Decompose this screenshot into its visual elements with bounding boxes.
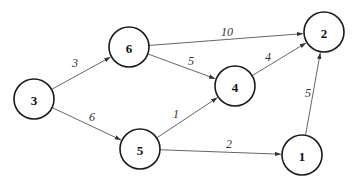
edge-3-to-5: 6 bbox=[52, 108, 121, 141]
edge-weight-label: 5 bbox=[305, 86, 311, 100]
node-label: 1 bbox=[299, 149, 306, 164]
edge-weight-label: 5 bbox=[188, 54, 194, 68]
arrow-icon bbox=[160, 150, 281, 154]
node-label: 4 bbox=[232, 80, 239, 95]
node-5: 5 bbox=[120, 129, 160, 169]
arrow-icon bbox=[52, 57, 111, 89]
node-label: 5 bbox=[137, 143, 144, 158]
edge-weight-label: 2 bbox=[226, 137, 232, 151]
edge-weight-label: 1 bbox=[173, 107, 179, 121]
edge-5-to-4: 1 bbox=[157, 98, 218, 138]
edge-weight-label: 6 bbox=[89, 110, 95, 124]
edge-3-to-6: 3 bbox=[52, 56, 111, 89]
node-2: 2 bbox=[304, 12, 344, 52]
arrow-icon bbox=[52, 108, 121, 141]
edge-weight-label: 3 bbox=[71, 56, 78, 70]
edge-5-to-1: 2 bbox=[160, 137, 281, 154]
arrow-icon bbox=[148, 54, 216, 79]
node-label: 2 bbox=[321, 26, 328, 41]
edges-layer: 361051245 bbox=[52, 25, 321, 154]
edge-weight-label: 4 bbox=[265, 50, 271, 64]
node-6: 6 bbox=[109, 27, 149, 67]
arrow-icon bbox=[157, 98, 218, 138]
edge-6-to-2: 10 bbox=[149, 25, 303, 45]
edge-6-to-4: 5 bbox=[148, 54, 216, 79]
node-3: 3 bbox=[14, 79, 54, 119]
graph-canvas: 361051245 365421 bbox=[0, 0, 358, 184]
node-label: 6 bbox=[126, 41, 133, 56]
edge-weight-label: 10 bbox=[221, 25, 233, 39]
edge-4-to-2: 4 bbox=[252, 43, 306, 76]
edge-1-to-2: 5 bbox=[305, 53, 320, 136]
node-4: 4 bbox=[215, 66, 255, 106]
node-1: 1 bbox=[282, 135, 322, 175]
node-label: 3 bbox=[31, 93, 38, 108]
arrow-icon bbox=[252, 43, 306, 76]
